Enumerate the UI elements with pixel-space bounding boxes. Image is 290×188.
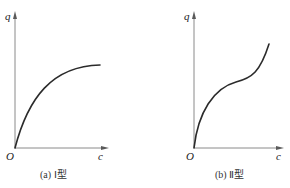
panel-a-y-label: q bbox=[5, 10, 11, 22]
panel-b-y-arrow-icon bbox=[192, 11, 196, 19]
panel-b: q c O (b) Ⅱ型 bbox=[184, 10, 284, 181]
panel-b-x-label: c bbox=[276, 150, 281, 162]
panel-a-caption: (a) Ⅰ型 bbox=[40, 168, 67, 181]
panel-a-y-arrow-icon bbox=[13, 11, 17, 19]
panel-b-curve bbox=[194, 44, 269, 148]
panel-a: q c O (a) Ⅰ型 bbox=[5, 10, 109, 181]
panel-a-curve bbox=[15, 65, 100, 148]
panel-a-origin-label: O bbox=[6, 150, 14, 162]
panel-b-y-label: q bbox=[184, 10, 190, 22]
panel-b-caption: (b) Ⅱ型 bbox=[215, 168, 244, 181]
panel-a-x-label: c bbox=[98, 150, 103, 162]
panel-b-origin-label: O bbox=[186, 150, 194, 162]
isotherm-figure: q c O (a) Ⅰ型 q c O (b) Ⅱ型 bbox=[0, 0, 290, 188]
